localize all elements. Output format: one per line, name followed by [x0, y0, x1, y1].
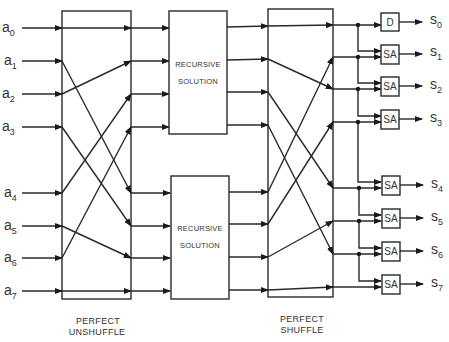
output-arrows — [399, 22, 423, 284]
gate-label-5: SA — [384, 213, 398, 224]
output-label-s4: s4 — [431, 175, 443, 194]
input-labels: a0 a1 a2 a3 a4 a5 a6 a7 — [2, 19, 17, 301]
recursive-solution-top-box — [169, 11, 227, 134]
unshuffle-caption-line2: UNSHUFFLE — [69, 327, 126, 337]
recursive-top-line1: RECURSIVE — [175, 60, 221, 69]
output-label-s5: s5 — [431, 208, 443, 227]
recursive-top-line2: SOLUTION — [178, 77, 218, 86]
output-label-s2: s2 — [430, 76, 442, 95]
recursive-prefix-sum-diagram: a0 a1 a2 a3 a4 a5 a6 a7 — [0, 0, 449, 342]
output-stage-wires — [333, 25, 381, 287]
input-label-a5: a5 — [4, 217, 17, 236]
output-labels: s0 s1 s2 s3 s4 s5 s6 s7 — [430, 11, 443, 293]
recursive-bottom-line2: SOLUTION — [180, 241, 220, 250]
output-gates: D SA SA SA SA SA SA SA — [381, 13, 400, 294]
gate-label-2: SA — [383, 81, 397, 92]
output-label-s6: s6 — [431, 241, 443, 260]
input-label-a6: a6 — [4, 249, 17, 268]
gate-label-4: SA — [384, 180, 398, 191]
perfect-unshuffle-box — [62, 11, 131, 299]
output-label-s1: s1 — [430, 43, 442, 62]
input-label-a7: a7 — [4, 282, 17, 301]
gate-label-0: D — [386, 17, 393, 28]
shuffle-caption-line2: SHUFFLE — [280, 325, 323, 335]
gate-label-1: SA — [383, 49, 397, 60]
input-label-a0: a0 — [2, 19, 15, 38]
input-label-a3: a3 — [2, 118, 15, 137]
output-label-s7: s7 — [431, 274, 443, 293]
unshuffle-caption-line1: PERFECT — [76, 316, 120, 326]
output-label-s0: s0 — [430, 11, 442, 30]
perfect-shuffle-box — [268, 9, 333, 297]
recursive-to-shuffle-wires — [227, 26, 268, 290]
recursive-solution-bottom-box — [171, 176, 229, 299]
gate-label-3: SA — [383, 114, 397, 125]
input-label-a1: a1 — [4, 52, 17, 71]
unshuffle-to-recursive-wires — [131, 28, 170, 291]
shuffle-caption-line1: PERFECT — [280, 314, 324, 324]
input-wires — [22, 28, 62, 291]
output-label-s3: s3 — [430, 109, 442, 128]
recursive-bottom-line1: RECURSIVE — [177, 224, 223, 233]
input-label-a2: a2 — [2, 85, 15, 104]
gate-label-6: SA — [384, 246, 398, 257]
gate-label-7: SA — [384, 279, 398, 290]
input-label-a4: a4 — [4, 184, 17, 203]
